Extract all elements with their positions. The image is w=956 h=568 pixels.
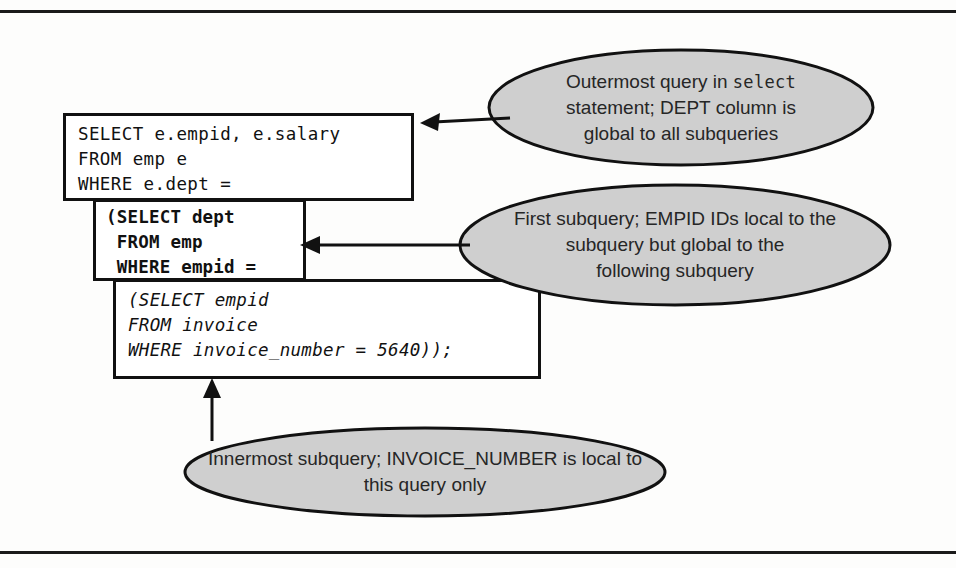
inner-subquery-code: (SELECT empid FROM invoice WHERE invoice… bbox=[128, 288, 453, 363]
callout-first-subquery: First subquery; EMPID IDs local to the s… bbox=[458, 183, 892, 307]
callout-innermost-subquery: Innermost subquery; INVOICE_NUMBER is lo… bbox=[183, 426, 667, 518]
connector-outermost bbox=[410, 100, 520, 140]
callout-innermost-subquery-ellipse bbox=[183, 426, 667, 518]
callout-first-subquery-ellipse bbox=[458, 183, 892, 307]
connector-innermost bbox=[190, 375, 230, 445]
bottom-horizontal-rule bbox=[0, 551, 956, 554]
outer-query-code: SELECT e.empid, e.salary FROM emp e WHER… bbox=[78, 122, 340, 197]
figure-canvas: (SELECT empid FROM invoice WHERE invoice… bbox=[0, 0, 956, 568]
callout-outermost: Outermost query in select statement; DEP… bbox=[487, 48, 875, 167]
first-subquery-code: (SELECT dept FROM emp WHERE empid = bbox=[106, 205, 256, 280]
first-subquery-box: (SELECT dept FROM emp WHERE empid = bbox=[93, 199, 306, 281]
top-horizontal-rule bbox=[0, 10, 956, 13]
callout-outermost-ellipse bbox=[487, 48, 875, 167]
connector-first-subquery bbox=[290, 235, 480, 275]
outer-query-box: SELECT e.empid, e.salary FROM emp e WHER… bbox=[63, 113, 414, 201]
